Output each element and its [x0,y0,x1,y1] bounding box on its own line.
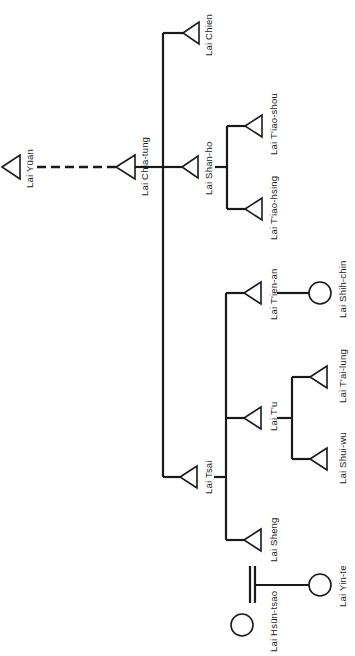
label-lai-yin-te: Lai Yin-te [337,565,348,607]
label-lai-sheng: Lai Sheng [268,517,279,562]
person-lai-chien: Lai Chien [183,14,214,56]
person-lai-tiao-hsing: Lai T'iao-hsing [245,176,279,240]
person-lai-shih-chin: Lai Shih-chin [309,260,348,318]
person-lai-shan-ho: Lai Shan-ho [182,142,214,195]
label-lai-tai-lung: Lai T'ai-lung [337,349,348,403]
male-triangle-icon [245,198,262,220]
person-lai-tiao-shou: Lai T'iao-shou [245,93,279,155]
person-lai-shui-wu: Lai Shui-wu [310,432,348,484]
person-lai-tu: Lai T'u [244,402,279,431]
male-triangle-icon [310,366,327,388]
female-circle-icon [231,614,253,636]
label-lai-chien: Lai Chien [203,14,214,56]
male-triangle-icon [116,155,135,179]
label-lai-shan-ho: Lai Shan-ho [203,142,214,195]
genealogy-diagram: Lai Yüan Lai Chia-tung Lai Chien Lai Sha… [0,0,355,656]
label-lai-tsai: Lai Tsai [203,460,214,494]
male-triangle-icon [180,466,197,488]
male-triangle-icon [182,156,198,178]
label-lai-tiao-shou: Lai T'iao-shou [268,93,279,155]
label-lai-tu: Lai T'u [268,402,279,431]
person-lai-tai-lung: Lai T'ai-lung [310,349,348,403]
double-bar-link [250,566,255,603]
label-lai-shui-wu: Lai Shui-wu [337,432,348,484]
female-circle-icon [309,574,331,596]
male-triangle-icon [244,407,261,429]
label-lai-tiao-hsing: Lai T'iao-hsing [268,176,279,240]
male-triangle-icon [2,155,20,179]
person-lai-tsai: Lai Tsai [180,460,214,494]
male-triangle-icon [244,529,261,551]
label-lai-hsun-tsao: Lai Hsün-tsao [268,591,279,652]
person-lai-yin-te: Lai Yin-te [309,565,348,607]
label-lai-shih-chin: Lai Shih-chin [337,260,348,318]
label-lai-tien-an: Lai T'ien-an [268,268,279,320]
label-lai-yuan: Lai Yüan [24,149,35,188]
male-triangle-icon [244,282,261,304]
person-lai-yuan: Lai Yüan [2,149,35,188]
male-triangle-icon [310,448,327,470]
female-circle-icon [309,282,331,304]
person-lai-sheng: Lai Sheng [244,517,279,562]
male-triangle-icon [245,115,262,137]
person-lai-tien-an: Lai T'ien-an [244,268,279,320]
male-triangle-icon [183,22,199,44]
